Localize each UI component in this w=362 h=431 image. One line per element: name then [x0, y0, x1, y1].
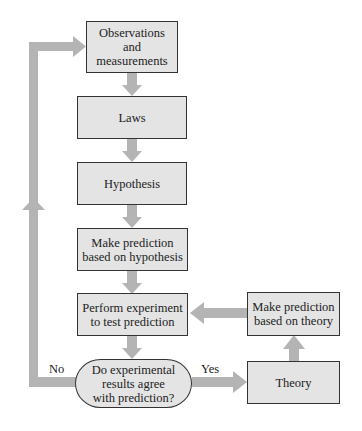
node-theory: Theory [247, 361, 340, 404]
node-predict-hypothesis: Make prediction based on hypothesis [77, 228, 188, 271]
node-predict-theory: Make prediction based on theory [247, 292, 340, 336]
edge-label-yes: Yes [201, 362, 219, 377]
edge-label-no: No [49, 362, 64, 377]
node-decision: Do experimental results agree with predi… [75, 359, 192, 408]
node-observations: Observations and measurements [86, 21, 178, 73]
node-laws: Laws [77, 96, 187, 139]
node-experiment: Perform experiment to test prediction [77, 293, 188, 336]
node-hypothesis: Hypothesis [77, 162, 187, 205]
